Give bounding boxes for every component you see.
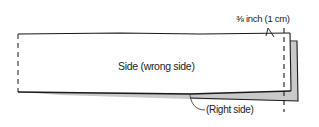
seam-allowance-label: ⅜ inch (1 cm) [236, 13, 290, 24]
panel-top-edge [18, 33, 290, 34]
wrong-side-label: Side (wrong side) [118, 60, 195, 72]
right-side-label: (Right side) [206, 104, 254, 115]
